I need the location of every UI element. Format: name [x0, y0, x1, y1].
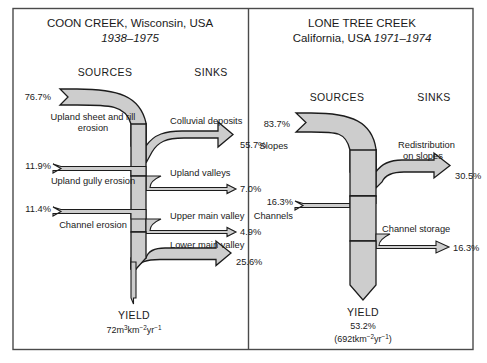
- coon-source-value-2: 11.4%: [25, 204, 51, 214]
- coon-sink-label-2: Upper main valley: [170, 211, 245, 221]
- lone-tree-title-line2-italic: 1971–1974: [374, 32, 432, 44]
- flow-yield-arrow-coon: [131, 262, 136, 304]
- lone-yield-percent: 53.2%: [350, 321, 376, 331]
- lone-tree-title-line2-regular: California, USA: [293, 32, 374, 44]
- coon-sink-label-1: Upland valleys: [170, 168, 231, 178]
- panel-lone-tree-creek: LONE TREE CREEK California, USA 1971–197…: [254, 17, 482, 344]
- flow-colluvial-deposits-55-7: [146, 122, 233, 163]
- lone-yield-header: YIELD: [347, 306, 379, 318]
- coon-source-value-1: 11.9%: [25, 161, 51, 171]
- lone-sink-value-1: 16.3%: [453, 243, 479, 253]
- coon-sink-value-1: 7.0%: [240, 184, 261, 194]
- lone-source-value-1: 16.3%: [267, 197, 293, 207]
- coon-sink-label-3: Lower main valley: [170, 240, 245, 250]
- flow-trunk-middle-lone: [350, 196, 376, 241]
- lone-tree-title-line1: LONE TREE CREEK: [308, 17, 416, 29]
- lone-sink-label-1: Channel storage: [382, 224, 450, 234]
- coon-source-value-0: 76.7%: [25, 92, 51, 102]
- coon-source-label-0-line2: erosion: [78, 123, 109, 133]
- lone-source-label-0: Slopes: [260, 141, 289, 151]
- coon-source-label-2: Channel erosion: [59, 220, 127, 230]
- sediment-budget-figure: COON CREEK, Wisconsin, USA 1938–1975 SOU…: [0, 0, 487, 363]
- diagram-canvas: COON CREEK, Wisconsin, USA 1938–1975 SOU…: [0, 0, 487, 363]
- lone-source-label-1: Channels: [254, 211, 294, 221]
- lone-tree-sources-header: SOURCES: [310, 91, 365, 103]
- flow-trunk-yield-lone: [350, 241, 376, 300]
- lone-sink-label-0-line2: on slopes: [403, 151, 443, 161]
- coon-yield-value: 72m3km−2yr−1: [106, 324, 162, 336]
- coon-sink-label-0: Colluvial deposits: [170, 116, 243, 126]
- flow-upper-main-valley-4-9: [146, 219, 236, 237]
- coon-yield-header: YIELD: [118, 309, 150, 321]
- coon-source-label-1: Upland gully erosion: [51, 176, 135, 186]
- flow-upland-valleys-7-0: [146, 176, 236, 194]
- lone-tree-sinks-header: SINKS: [417, 91, 451, 103]
- coon-creek-sources-header: SOURCES: [78, 66, 133, 78]
- lone-sink-value-0: 30.5%: [455, 171, 481, 181]
- flow-trunk-upper-lone: [350, 150, 376, 196]
- coon-sink-value-2: 4.9%: [240, 227, 261, 237]
- coon-source-label-0-line1: Upland sheet and rill: [51, 112, 136, 122]
- flow-channel-storage-16-3: [376, 234, 449, 253]
- coon-creek-title-line1: COON CREEK, Wisconsin, USA: [47, 17, 213, 29]
- coon-creek-sinks-header: SINKS: [194, 66, 228, 78]
- coon-creek-title-line2: 1938–1975: [101, 32, 159, 44]
- lone-sink-label-0-line1: Redistribution: [398, 140, 455, 150]
- coon-sink-value-3: 25.6%: [236, 257, 262, 267]
- panel-coon-creek: COON CREEK, Wisconsin, USA 1938–1975 SOU…: [25, 17, 267, 335]
- lone-tree-title-line2: California, USA 1971–1974: [293, 32, 432, 44]
- lone-source-value-0: 83.7%: [264, 119, 290, 129]
- lone-yield-value: (692tkm−2yr−1): [334, 333, 392, 345]
